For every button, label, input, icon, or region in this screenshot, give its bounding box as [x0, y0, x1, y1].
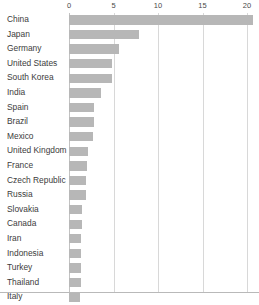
bar: [69, 205, 82, 214]
bar: [69, 161, 87, 170]
bar: [69, 15, 253, 24]
bar: [69, 88, 101, 97]
bar-rows: ChinaJapanGermanyUnited StatesSouth Kore…: [0, 13, 259, 305]
bar-row: Turkey: [0, 261, 259, 276]
bar-row: Brazil: [0, 115, 259, 130]
bar-row: Iran: [0, 232, 259, 247]
bar: [69, 292, 80, 301]
category-label: India: [7, 87, 25, 98]
bar-row: Slovakia: [0, 203, 259, 218]
bar-row: Russia: [0, 188, 259, 203]
bar: [69, 234, 81, 243]
category-label: Germany: [7, 43, 41, 54]
bar-row: Japan: [0, 28, 259, 43]
category-label: China: [7, 14, 29, 25]
x-axis-tick-label: 20: [243, 1, 251, 10]
bar: [69, 263, 81, 272]
bar-row: Canada: [0, 217, 259, 232]
bar: [69, 147, 88, 156]
x-axis-tick-label: 5: [111, 1, 115, 10]
bar: [69, 44, 119, 53]
bar-row: Mexico: [0, 130, 259, 145]
category-label: Indonesia: [7, 248, 43, 259]
bar-row: India: [0, 86, 259, 101]
bar: [69, 220, 82, 229]
bar-row: France: [0, 159, 259, 174]
category-label: Spain: [7, 102, 28, 113]
category-label: South Korea: [7, 72, 54, 83]
bar-row: South Korea: [0, 71, 259, 86]
bar-row: Czech Republic: [0, 174, 259, 189]
plot-area: ChinaJapanGermanyUnited StatesSouth Kore…: [0, 13, 259, 292]
bar: [69, 249, 81, 258]
bar: [69, 103, 94, 112]
x-axis-tick-label: 10: [154, 1, 162, 10]
bar-row: United States: [0, 57, 259, 72]
bar-row: Spain: [0, 101, 259, 116]
category-label: Slovakia: [7, 204, 39, 215]
category-label: Czech Republic: [7, 175, 66, 186]
category-label: Brazil: [7, 116, 28, 127]
category-label: Iran: [7, 233, 21, 244]
bar: [69, 59, 112, 68]
bar: [69, 132, 93, 141]
bar-row: United Kingdom: [0, 144, 259, 159]
bar: [69, 117, 94, 126]
bar-row: Thailand: [0, 276, 259, 291]
category-label: United States: [7, 58, 57, 69]
category-label: Russia: [7, 189, 33, 200]
x-axis-tick-label: 0: [67, 1, 71, 10]
category-label: Turkey: [7, 262, 32, 273]
category-label: Japan: [7, 29, 30, 40]
category-label: France: [7, 160, 33, 171]
category-label: Thailand: [7, 277, 39, 288]
category-label: Mexico: [7, 131, 34, 142]
bar: [69, 190, 86, 199]
bar: [69, 74, 112, 83]
category-label: Canada: [7, 218, 36, 229]
category-label: United Kingdom: [7, 145, 67, 156]
bottom-divider: [0, 292, 259, 293]
bar: [69, 30, 139, 39]
bar-row: China: [0, 13, 259, 28]
bar: [69, 278, 81, 287]
x-axis-tick-label: 15: [198, 1, 206, 10]
bar-row: Indonesia: [0, 247, 259, 262]
x-axis: 05101520: [0, 0, 259, 14]
bar-row: Germany: [0, 42, 259, 57]
bar: [69, 176, 86, 185]
